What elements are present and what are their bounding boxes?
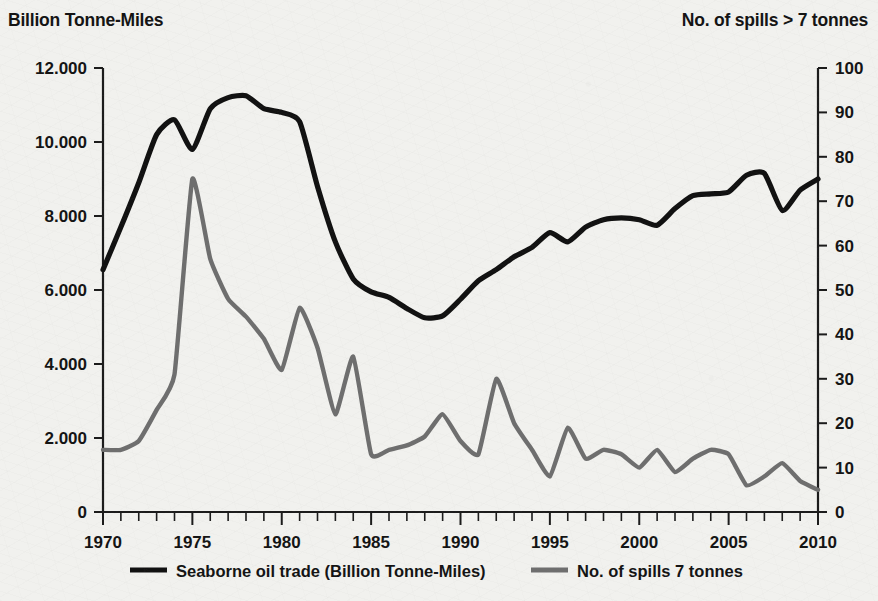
right-tick-label: 100 — [835, 59, 863, 78]
right-tick-label: 50 — [835, 281, 854, 300]
oil-trade-spills-chart: Billion Tonne-Miles No. of spills > 7 to… — [0, 0, 878, 601]
left-tick-label: 10.000 — [35, 133, 87, 152]
right-axis-title: No. of spills > 7 tonnes — [682, 10, 868, 31]
series-line-oil-spills — [103, 178, 818, 489]
series-line-seaborne-oil-trade — [103, 95, 818, 318]
legend-label-oil-spills: No. of spills 7 tonnes — [577, 562, 743, 580]
right-tick-label: 40 — [835, 325, 854, 344]
x-axis-tick-labels: 197019751980198519901995200020052010 — [84, 533, 837, 552]
right-tick-label: 0 — [835, 503, 844, 522]
right-tick-label: 60 — [835, 237, 854, 256]
x-tick-label: 1970 — [84, 533, 122, 552]
chart-legend: Seaborne oil trade (Billion Tonne-Miles)… — [130, 562, 743, 580]
left-tick-label: 4.000 — [44, 355, 87, 374]
legend-label-seaborne-oil-trade: Seaborne oil trade (Billion Tonne-Miles) — [176, 562, 486, 580]
x-tick-label: 1990 — [442, 533, 480, 552]
x-tick-label: 2000 — [620, 533, 658, 552]
right-tick-label: 70 — [835, 192, 854, 211]
right-tick-label: 80 — [835, 148, 854, 167]
x-tick-label: 2005 — [710, 533, 748, 552]
right-axis-tick-labels: 0102030405060708090100 — [835, 59, 863, 522]
left-tick-label: 12.000 — [35, 59, 87, 78]
x-axis-ticks — [103, 512, 818, 525]
x-tick-label: 1980 — [263, 533, 301, 552]
right-tick-label: 20 — [835, 414, 854, 433]
series-lines — [103, 95, 818, 489]
left-y-axis: 02.0004.0006.0008.00010.00012.000 — [35, 59, 103, 522]
x-tick-label: 1995 — [531, 533, 569, 552]
left-tick-label: 8.000 — [44, 207, 87, 226]
left-tick-label: 2.000 — [44, 429, 87, 448]
right-tick-label: 10 — [835, 459, 854, 478]
left-axis-ticks — [94, 68, 103, 512]
left-axis-tick-labels: 02.0004.0006.0008.00010.00012.000 — [35, 59, 87, 522]
chart-canvas: 02.0004.0006.0008.00010.00012.000 010203… — [0, 0, 878, 601]
x-tick-label: 1975 — [173, 533, 211, 552]
right-axis-ticks — [818, 68, 827, 512]
right-tick-label: 90 — [835, 103, 854, 122]
right-tick-label: 30 — [835, 370, 854, 389]
x-tick-label: 1985 — [352, 533, 390, 552]
x-axis: 197019751980198519901995200020052010 — [84, 512, 837, 552]
left-axis-title: Billion Tonne-Miles — [8, 10, 163, 31]
left-tick-label: 6.000 — [44, 281, 87, 300]
x-tick-label: 2010 — [799, 533, 837, 552]
right-y-axis: 0102030405060708090100 — [818, 59, 863, 522]
left-tick-label: 0 — [78, 503, 87, 522]
